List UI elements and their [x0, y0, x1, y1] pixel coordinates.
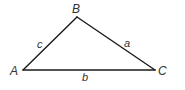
side-a-line — [77, 17, 155, 70]
vertex-b-label: B — [72, 2, 80, 16]
side-b-label: b — [82, 71, 88, 83]
vertex-a-label: A — [9, 64, 18, 78]
vertex-c-label: C — [158, 64, 167, 78]
triangle-diagram: A B C c a b — [0, 0, 185, 90]
side-c-line — [23, 17, 77, 70]
side-a-label: a — [124, 37, 130, 49]
side-c-label: c — [37, 38, 43, 50]
